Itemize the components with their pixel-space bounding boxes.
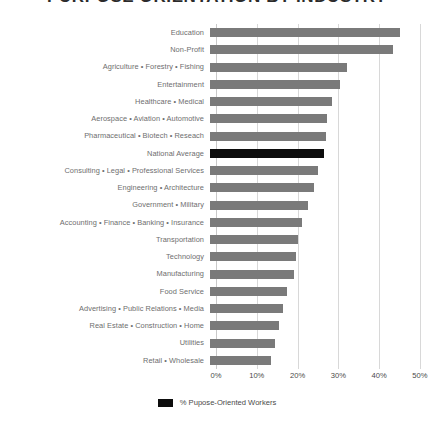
bar-row: Healthcare • Medical (0, 93, 434, 110)
bar-row: Accounting • Finance • Banking • Insuran… (0, 214, 434, 231)
legend-swatch-icon (158, 399, 173, 407)
bar-track (210, 300, 434, 317)
bar-rows: EducationNon-ProfitAgriculture • Forestr… (0, 24, 434, 369)
bar (210, 339, 275, 348)
bar-track (210, 128, 434, 145)
bar (210, 270, 294, 279)
bar (210, 252, 296, 261)
bar-track (210, 24, 434, 41)
category-label: Engineering • Architecture (0, 184, 210, 191)
category-label: Advertising • Public Relations • Media (0, 305, 210, 312)
category-label: National Average (0, 150, 210, 157)
bar-track (210, 110, 434, 127)
bar (210, 235, 298, 244)
bar-row: Non-Profit (0, 41, 434, 58)
x-tick-label: 40% (371, 371, 386, 380)
bar-track (210, 317, 434, 334)
bar-row: Aerospace • Aviation • Automotive (0, 110, 434, 127)
bar (210, 132, 326, 141)
bar-row: Advertising • Public Relations • Media (0, 300, 434, 317)
chart-legend: % Pupose-Oriented Workers (0, 398, 434, 407)
category-label: Education (0, 29, 210, 36)
category-label: Retail • Wholesale (0, 357, 210, 364)
bar-row: Manufacturing (0, 266, 434, 283)
bar (210, 356, 271, 365)
bar (210, 321, 279, 330)
bar-track (210, 266, 434, 283)
bar (210, 183, 314, 192)
category-label: Accounting • Finance • Banking • Insuran… (0, 219, 210, 226)
x-tick-label: 20% (290, 371, 305, 380)
bar-row: Pharmaceutical • Biotech • Reseach (0, 128, 434, 145)
category-label: Aerospace • Aviation • Automotive (0, 115, 210, 122)
bar-track (210, 145, 434, 162)
bar (210, 114, 327, 123)
bar (210, 28, 400, 37)
bar-track (210, 179, 434, 196)
bar (210, 166, 318, 175)
category-label: Non-Profit (0, 46, 210, 53)
bar-track (210, 214, 434, 231)
bar-row: Utilities (0, 335, 434, 352)
x-axis: 0%10%20%30%40%50% (216, 371, 428, 383)
bar-track (210, 352, 434, 369)
bar (210, 218, 302, 227)
category-label: Pharmaceutical • Biotech • Reseach (0, 132, 210, 139)
bar-row: Real Estate • Construction • Home (0, 317, 434, 334)
bar-row: Retail • Wholesale (0, 352, 434, 369)
category-label: Transportation (0, 236, 210, 243)
bar (210, 201, 308, 210)
bar (210, 287, 287, 296)
category-label: Utilities (0, 339, 210, 346)
x-tick-label: 0% (211, 371, 222, 380)
category-label: Manufacturing (0, 270, 210, 277)
x-tick-label: 50% (412, 371, 427, 380)
bar-row: Consulting • Legal • Professional Servic… (0, 162, 434, 179)
bar-row: Education (0, 24, 434, 41)
x-tick-label: 30% (331, 371, 346, 380)
category-label: Government • Military (0, 201, 210, 208)
bar-row: Entertainment (0, 76, 434, 93)
bar (210, 63, 347, 72)
bar-track (210, 335, 434, 352)
bar (210, 304, 283, 313)
bar-row: National Average (0, 145, 434, 162)
bar-track (210, 59, 434, 76)
bar-track (210, 231, 434, 248)
bar-row: Technology (0, 248, 434, 265)
bar-track (210, 283, 434, 300)
bar-track (210, 76, 434, 93)
chart-title: PURPOSE ORIENTATION BY INDUSTRY (0, 0, 434, 7)
bar-row: Engineering • Architecture (0, 179, 434, 196)
bar (210, 45, 393, 54)
bar-row: Transportation (0, 231, 434, 248)
category-label: Agriculture • Forestry • Fishing (0, 63, 210, 70)
bar (210, 149, 324, 158)
bar (210, 97, 332, 106)
category-label: Real Estate • Construction • Home (0, 322, 210, 329)
x-tick-label: 10% (249, 371, 264, 380)
bar-row: Government • Military (0, 197, 434, 214)
bar-row: Agriculture • Forestry • Fishing (0, 59, 434, 76)
category-label: Technology (0, 253, 210, 260)
category-label: Healthcare • Medical (0, 98, 210, 105)
bar-track (210, 248, 434, 265)
bar-track (210, 197, 434, 214)
bar (210, 80, 340, 89)
category-label: Consulting • Legal • Professional Servic… (0, 167, 210, 174)
bar-track (210, 162, 434, 179)
category-label: Food Service (0, 288, 210, 295)
bar-row: Food Service (0, 283, 434, 300)
bar-track (210, 41, 434, 58)
legend-label: % Pupose-Oriented Workers (180, 398, 277, 407)
bar-track (210, 93, 434, 110)
category-label: Entertainment (0, 81, 210, 88)
